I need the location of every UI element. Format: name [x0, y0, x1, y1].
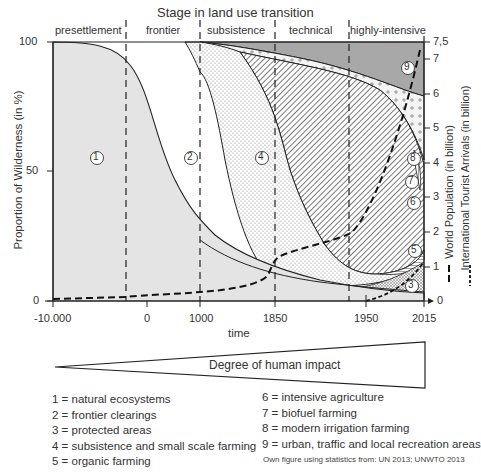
- x-tick-2015: 2015: [412, 312, 436, 324]
- legend-item-3: 3 = protected areas: [52, 423, 256, 439]
- y-axis-left-label: Proportion of Wilderness (in %): [12, 75, 24, 265]
- y-tick-0: 0: [33, 294, 39, 306]
- y2-tick-3: 3: [433, 190, 439, 202]
- legend-item-1: 1 = natural ecosystems: [52, 392, 256, 408]
- x-tick-1000: 1000: [189, 312, 213, 324]
- legend-item-6: 6 = intensive agriculture: [262, 390, 481, 406]
- source-note: Own figure using statistics from: UN 201…: [263, 455, 465, 464]
- legend-left: 1 = natural ecosystems 2 = frontier clea…: [52, 392, 256, 470]
- y2-tick-2: 2: [433, 225, 439, 237]
- x-tick-1950: 1950: [354, 312, 378, 324]
- x-tick-minus-10000: -10.000: [34, 312, 71, 324]
- legend-item-4: 4 = subsistence and small scale farming: [52, 439, 256, 455]
- y-tick-50: 50: [26, 164, 38, 176]
- x-tick-1850: 1850: [263, 312, 287, 324]
- legend-item-8: 8 = modern irrigation farming: [262, 421, 481, 437]
- y2-tick-5: 5: [433, 121, 439, 133]
- y-axis-population-label: World Population (in billion): [443, 117, 455, 267]
- legend-item-2: 2 = frontier clearings: [52, 408, 256, 424]
- legend-item-7: 7 = biofuel farming: [262, 406, 481, 422]
- legend-right: 6 = intensive agriculture 7 = biofuel fa…: [262, 390, 481, 452]
- y-tick-100: 100: [19, 35, 37, 47]
- marker-6: 6: [410, 196, 416, 207]
- y2-tick-1: 1: [433, 260, 439, 272]
- marker-1: 1: [93, 151, 99, 162]
- human-impact-label: Degree of human impact: [209, 358, 340, 372]
- y2-tick-0: 0: [437, 294, 443, 306]
- marker-3: 3: [408, 279, 414, 290]
- y2-tick-7.5: 7,5: [433, 35, 448, 47]
- marker-2: 2: [187, 151, 193, 162]
- y2-tick-4: 4: [433, 156, 439, 168]
- marker-4: 4: [258, 151, 264, 162]
- x-axis-label: time: [228, 327, 250, 339]
- marker-7: 7: [408, 175, 414, 186]
- y-axis-tourists-label: International Tourist Arrivals (in billi…: [459, 73, 471, 283]
- x-axis-arrow-icon: [428, 298, 434, 304]
- marker-8: 8: [410, 152, 416, 163]
- x-tick-0: 0: [144, 312, 150, 324]
- y2-tick-6: 6: [433, 87, 439, 99]
- marker-5: 5: [411, 244, 417, 255]
- legend-item-5: 5 = organic farming: [52, 454, 256, 470]
- marker-9: 9: [404, 61, 410, 72]
- legend-item-9: 9 = urban, traffic and local recreation …: [262, 437, 481, 453]
- y2-tick-7: 7: [433, 52, 439, 64]
